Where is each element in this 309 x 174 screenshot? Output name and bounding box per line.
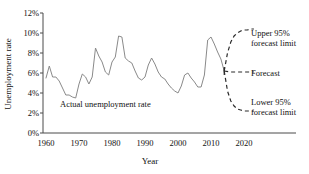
x-tick-label: 2020 xyxy=(236,138,253,148)
x-axis-ticklabels: 1960 1970 1980 1990 2000 2010 2020 xyxy=(38,138,253,148)
y-axis-title: Unemployment rate xyxy=(3,38,13,110)
x-tick-label: 2000 xyxy=(170,138,187,148)
x-tick-label: 2010 xyxy=(203,138,220,148)
legend: Upper 95% forecast limit Forecast Lower … xyxy=(251,28,297,117)
x-axis-title: Year xyxy=(142,156,159,166)
legend-label-lower-line1: Lower 95% xyxy=(251,97,291,107)
legend-label-lower-line2: forecast limit xyxy=(251,107,297,117)
x-tick-label: 1960 xyxy=(38,138,55,148)
x-tick-label: 1980 xyxy=(104,138,121,148)
legend-label-upper-line1: Upper 95% xyxy=(251,28,290,38)
y-axis-ticklabels: 12% 10% 8% 6% 4% 2% 0% xyxy=(23,8,39,138)
y-tick-label: 12% xyxy=(23,8,39,18)
x-tick-label: 1990 xyxy=(137,138,154,148)
y-tick-label: 0% xyxy=(28,128,39,138)
legend-label-forecast: Forecast xyxy=(251,68,280,78)
x-tick-label: 1970 xyxy=(71,138,88,148)
legend-item-lower-limit: Lower 95% forecast limit xyxy=(251,97,297,117)
lower-95-forecast-limit-line xyxy=(224,71,254,111)
upper-95-forecast-limit-line xyxy=(224,29,254,71)
actual-series-label: Actual unemployment rate xyxy=(60,99,151,109)
actual-unemployment-line xyxy=(46,36,224,98)
forecast-line xyxy=(224,71,254,72)
legend-label-upper-line2: forecast limit xyxy=(251,38,297,48)
y-tick-label: 6% xyxy=(28,68,39,78)
unemployment-forecast-chart: Unemployment rate 12% 10% 8% 6% 4% 2% 0%… xyxy=(0,0,309,174)
y-tick-label: 4% xyxy=(28,88,39,98)
y-tick-label: 2% xyxy=(28,108,39,118)
y-tick-label: 10% xyxy=(23,28,39,38)
y-tick-label: 8% xyxy=(28,48,39,58)
legend-item-forecast: Forecast xyxy=(251,68,280,78)
legend-item-upper-limit: Upper 95% forecast limit xyxy=(251,28,297,48)
